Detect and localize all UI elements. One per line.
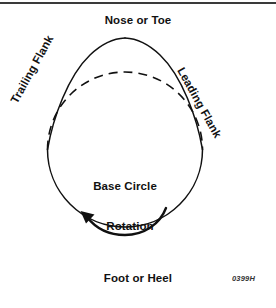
- base-circle-dashed-arc: [48, 72, 203, 149]
- label-rotation: Rotation: [0, 220, 260, 233]
- cam-lobe-figure: Nose or Toe Trailing Flank Leading Flank…: [0, 0, 276, 308]
- label-nose-or-toe: Nose or Toe: [0, 14, 276, 27]
- label-base-circle: Base Circle: [0, 180, 250, 193]
- trailing-flank-outline: [48, 38, 126, 150]
- figure-number: 0399H: [232, 274, 255, 283]
